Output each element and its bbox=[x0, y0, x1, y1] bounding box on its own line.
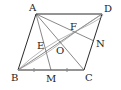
label-f: F bbox=[70, 21, 77, 32]
label-o: O bbox=[56, 45, 64, 56]
label-d: D bbox=[104, 3, 112, 14]
label-c: C bbox=[85, 72, 93, 83]
label-n: N bbox=[96, 38, 105, 49]
geometry-figure: A D B C M O E F N bbox=[0, 0, 121, 90]
segment-an bbox=[36, 14, 94, 41]
label-a: A bbox=[28, 2, 37, 13]
label-e: E bbox=[37, 40, 44, 51]
label-b: B bbox=[11, 72, 18, 83]
label-m: M bbox=[46, 73, 56, 84]
